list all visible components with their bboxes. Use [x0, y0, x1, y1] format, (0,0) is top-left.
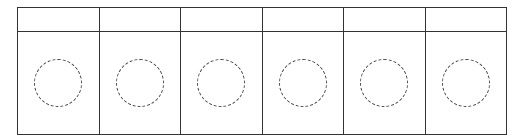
dashed-circle-placeholder	[116, 59, 164, 107]
column-body	[263, 32, 344, 134]
column-header	[181, 8, 262, 32]
column-header	[263, 8, 344, 32]
dashed-circle-placeholder	[442, 59, 490, 107]
column-body	[344, 32, 425, 134]
dashed-circle-placeholder	[34, 59, 82, 107]
dashed-circle-placeholder	[197, 59, 245, 107]
dashed-circle-placeholder	[279, 59, 327, 107]
grid-column	[263, 8, 345, 134]
dashed-circle-placeholder	[360, 59, 408, 107]
grid-column	[100, 8, 182, 134]
column-header	[18, 8, 99, 32]
grid-column	[344, 8, 426, 134]
grid-column	[18, 8, 100, 134]
column-header	[344, 8, 425, 32]
column-body	[18, 32, 99, 134]
six-column-grid	[17, 7, 507, 135]
column-header	[426, 8, 507, 32]
grid-column	[426, 8, 507, 134]
column-body	[100, 32, 181, 134]
column-body	[181, 32, 262, 134]
column-body	[426, 32, 507, 134]
grid-column	[181, 8, 263, 134]
column-header	[100, 8, 181, 32]
